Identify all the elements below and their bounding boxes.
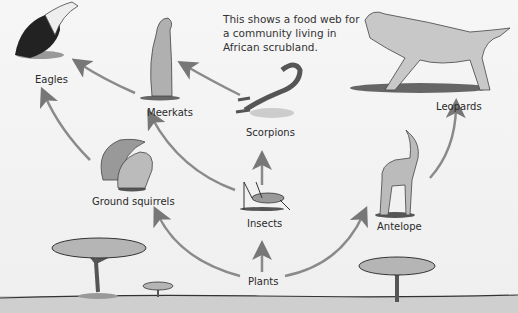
label-antelope: Antelope <box>377 221 422 232</box>
label-eagles: Eagles <box>35 74 68 85</box>
intro-text: This shows a food web for a community li… <box>223 12 363 54</box>
leopard-illustration <box>350 12 510 93</box>
ground <box>0 295 518 313</box>
label-meerkats: Meerkats <box>147 107 193 118</box>
eagle-illustration <box>15 2 78 59</box>
food-web-diagram: This shows a food web for a community li… <box>0 0 518 313</box>
acacia-tree-right <box>359 257 435 302</box>
ground-squirrel-illustration <box>101 139 152 191</box>
antelope-illustration <box>375 130 418 218</box>
insect-illustration <box>240 182 290 211</box>
acacia-tree-left <box>52 238 146 299</box>
meerkat-illustration <box>140 18 180 101</box>
label-plants: Plants <box>248 276 278 287</box>
scorpion-illustration <box>236 65 300 118</box>
label-ground-squirrels: Ground squirrels <box>92 196 175 207</box>
label-insects: Insects <box>247 218 282 229</box>
label-leopards: Leopards <box>436 101 482 112</box>
label-scorpions: Scorpions <box>246 127 295 138</box>
